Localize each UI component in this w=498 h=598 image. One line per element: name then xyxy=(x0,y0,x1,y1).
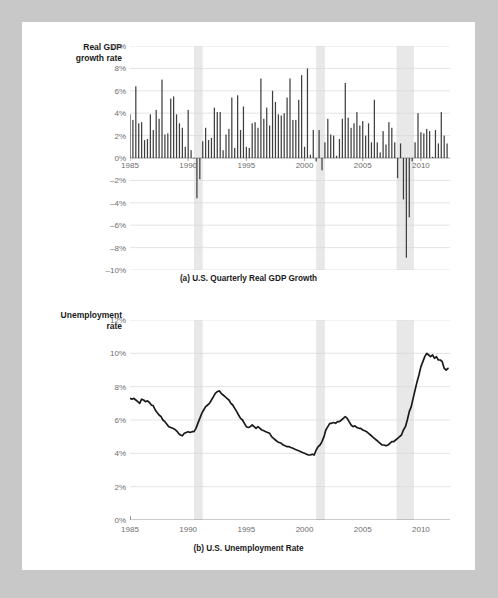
panel-b-svg xyxy=(130,320,450,520)
panel-b-ytick: 12% xyxy=(92,316,126,325)
gdp-bar xyxy=(397,158,398,178)
gdp-bar xyxy=(205,128,206,158)
gdp-bar xyxy=(444,136,445,158)
gdp-bar xyxy=(170,99,171,158)
gdp-bar xyxy=(432,157,433,158)
gdp-bar xyxy=(336,156,337,158)
gdp-bar xyxy=(263,119,264,158)
gdp-bar xyxy=(362,121,363,158)
gdp-bar xyxy=(353,123,354,158)
gdp-bar xyxy=(423,133,424,158)
gdp-bar xyxy=(371,142,372,158)
gdp-bar xyxy=(240,130,241,158)
gdp-bar xyxy=(167,133,168,158)
panel-a-ytick: –6% xyxy=(92,221,126,230)
gdp-bar xyxy=(345,83,346,158)
gdp-bar xyxy=(382,131,383,158)
gdp-bar xyxy=(275,102,276,158)
gdp-bar xyxy=(182,128,183,158)
gdp-bar xyxy=(385,145,386,158)
gdp-bar xyxy=(391,128,392,158)
gdp-bar xyxy=(435,130,436,158)
gdp-bar xyxy=(286,98,287,158)
panel-a-ytick: 10% xyxy=(92,42,126,51)
gdp-bar xyxy=(295,120,296,158)
gdp-bar xyxy=(304,147,305,158)
gdp-bar xyxy=(350,128,351,158)
gdp-bar xyxy=(289,78,290,158)
gdp-bar xyxy=(420,132,421,158)
gdp-bar xyxy=(446,143,447,158)
gdp-bar xyxy=(220,112,221,158)
gdp-bar xyxy=(161,80,162,158)
gdp-bar xyxy=(202,141,203,158)
panel-a-xtick: 2010 xyxy=(412,161,430,170)
gdp-bar xyxy=(252,123,253,158)
gdp-bar xyxy=(441,112,442,158)
gdp-bar xyxy=(406,158,407,258)
gdp-bar xyxy=(211,138,212,158)
gdp-bar xyxy=(400,143,401,158)
panel-b-xtick: 2005 xyxy=(354,525,372,534)
gdp-bar xyxy=(368,123,369,158)
panel-b-xtick: 2000 xyxy=(296,525,314,534)
gdp-bar xyxy=(388,122,389,158)
panel-b-xtick: 1990 xyxy=(179,525,197,534)
gdp-bar xyxy=(342,119,343,158)
panel-a-ytick: –8% xyxy=(92,243,126,252)
gdp-bar xyxy=(321,158,322,170)
gdp-bar xyxy=(214,108,215,158)
gdp-bar xyxy=(318,130,319,158)
gdp-bar xyxy=(327,119,328,158)
gdp-bar xyxy=(156,110,157,158)
gdp-bar xyxy=(228,129,229,158)
panel-b-xtick: 1995 xyxy=(237,525,255,534)
gdp-bar xyxy=(324,142,325,158)
gdp-bar xyxy=(193,158,194,159)
gdp-bar xyxy=(266,108,267,158)
gdp-bar xyxy=(185,147,186,158)
panel-a-ytick: 2% xyxy=(92,131,126,140)
gdp-bar xyxy=(158,119,159,158)
gdp-bar xyxy=(330,134,331,158)
gdp-bar xyxy=(173,96,174,158)
gdp-bar xyxy=(365,136,366,158)
gdp-bar xyxy=(339,139,340,158)
gdp-bar xyxy=(356,112,357,158)
panel-a-caption: (a) U.S. Quarterly Real GDP Growth xyxy=(22,274,475,283)
panel-a-plot-area xyxy=(130,46,450,270)
gdp-bar xyxy=(144,140,145,158)
panel-b-plot-area xyxy=(130,320,450,520)
gdp-bar xyxy=(150,114,151,158)
gdp-bar xyxy=(414,142,415,158)
gdp-bar xyxy=(208,140,209,158)
gdp-bar xyxy=(374,100,375,158)
gdp-bar xyxy=(417,113,418,158)
gdp-bar xyxy=(147,139,148,158)
panel-b-xtick: 2010 xyxy=(412,525,430,534)
gdp-bar xyxy=(141,122,142,158)
gdp-bar xyxy=(135,86,136,158)
gdp-bar xyxy=(188,110,189,158)
gdp-bar xyxy=(426,129,427,158)
gdp-bar xyxy=(429,131,430,158)
gdp-bar xyxy=(257,128,258,158)
gdp-bar xyxy=(249,148,250,158)
panel-a-xtick: 2005 xyxy=(354,161,372,170)
gdp-bar xyxy=(199,158,200,179)
panel-a-ytick: 6% xyxy=(92,86,126,95)
gdp-bar xyxy=(190,150,191,158)
panel-b-ytick: 8% xyxy=(92,382,126,391)
panel-a-ytick: –2% xyxy=(92,176,126,185)
panel-b-ytick: 4% xyxy=(92,449,126,458)
gdp-bar xyxy=(237,95,238,158)
gdp-bar xyxy=(284,113,285,158)
panel-a-ytick: 8% xyxy=(92,64,126,73)
panel-b-xtick: 1985 xyxy=(121,525,139,534)
gdp-bar xyxy=(231,98,232,158)
panel-b-caption: (b) U.S. Unemployment Rate xyxy=(22,544,475,553)
gdp-bar xyxy=(298,100,299,158)
gdp-bar xyxy=(164,134,165,158)
panel-a-ytick: –4% xyxy=(92,198,126,207)
gdp-bar xyxy=(281,115,282,158)
